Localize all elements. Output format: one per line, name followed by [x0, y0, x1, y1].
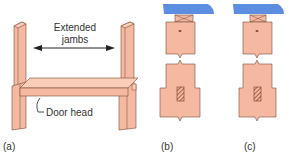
- caption-c: (c): [244, 141, 256, 152]
- extended-jambs-label: Extended jambs: [53, 22, 97, 46]
- panel-c-section: [233, 4, 284, 121]
- label-line-1: Extended: [53, 22, 97, 34]
- caption-b: (b): [161, 141, 173, 152]
- caption-a: (a): [3, 141, 15, 152]
- diagram-canvas: [0, 0, 303, 160]
- door-head-label: Door head: [46, 108, 93, 118]
- label-line-2: jambs: [53, 34, 97, 46]
- panel-b-section: [160, 4, 214, 121]
